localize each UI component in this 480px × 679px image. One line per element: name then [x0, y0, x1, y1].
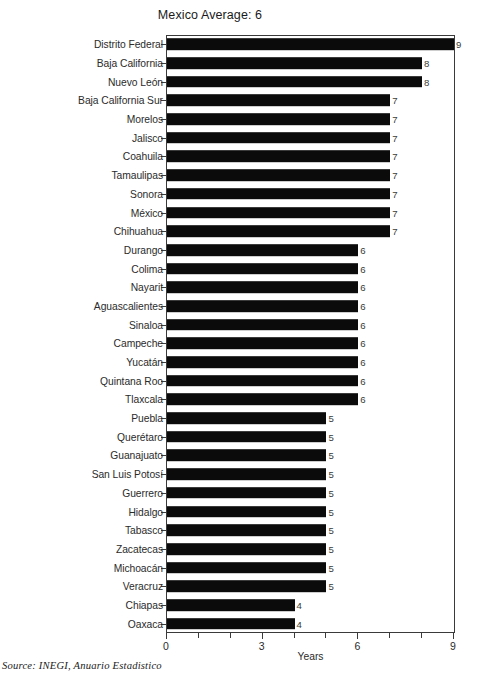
table-row: Chiapas4 [0, 596, 480, 615]
table-row: Guerrero5 [0, 484, 480, 503]
bar-value-label: 6 [360, 375, 365, 386]
bar [167, 394, 358, 406]
x-axis-tick [294, 633, 295, 638]
category-label: Aguascalientes [94, 300, 163, 311]
category-label: Chiapas [126, 599, 163, 610]
bar [167, 57, 422, 69]
bar-value-label: 4 [297, 599, 302, 610]
x-axis-tick [389, 633, 390, 638]
bar-value-label: 5 [328, 413, 333, 424]
table-row: Sonora7 [0, 185, 480, 204]
bar [167, 562, 326, 574]
table-row: Tlaxcala6 [0, 390, 480, 409]
bar-value-label: 5 [328, 506, 333, 517]
category-label: Querétaro [117, 431, 163, 442]
bar [167, 188, 390, 200]
table-row: Hidalgo5 [0, 502, 480, 521]
category-label: Tlaxcala [125, 394, 163, 405]
bar [167, 543, 326, 555]
category-label: Baja California [97, 58, 163, 69]
bar-value-label: 7 [392, 114, 397, 125]
bar [167, 244, 358, 256]
bar [167, 39, 454, 51]
bar-value-label: 5 [328, 525, 333, 536]
bar [167, 319, 358, 331]
bar-value-label: 6 [360, 263, 365, 274]
category-label: San Luis Potosí [92, 469, 163, 480]
table-row: Oaxaca4 [0, 614, 480, 633]
bar-value-label: 5 [328, 431, 333, 442]
bar [167, 487, 326, 499]
bar [167, 356, 358, 368]
bar [167, 338, 358, 350]
table-row: Veracruz5 [0, 577, 480, 596]
category-label: México [131, 207, 163, 218]
x-axis-tick [262, 633, 263, 639]
bar [167, 207, 390, 219]
bar-value-label: 5 [328, 581, 333, 592]
table-row: Tamaulipas7 [0, 166, 480, 185]
bar [167, 375, 358, 387]
table-row: San Luis Potosí5 [0, 465, 480, 484]
bar-value-label: 5 [328, 469, 333, 480]
table-row: Coahuila7 [0, 147, 480, 166]
category-label: Guanajuato [110, 450, 163, 461]
bar [167, 580, 326, 592]
bar [167, 599, 295, 611]
x-axis-tick [166, 633, 167, 639]
x-axis-title: Years [166, 651, 455, 662]
bar-value-label: 6 [360, 319, 365, 330]
category-label: Campeche [114, 338, 163, 349]
table-row: Guanajuato5 [0, 446, 480, 465]
category-label: Sonora [130, 188, 163, 199]
source-note: Source: INEGI, Anuario Estadistico [2, 660, 162, 671]
table-row: Tabasco5 [0, 521, 480, 540]
bar-value-label: 5 [328, 450, 333, 461]
bar-value-label: 5 [328, 543, 333, 554]
category-label: Morelos [127, 114, 163, 125]
bar-value-label: 7 [392, 95, 397, 106]
category-label: Nayarit [131, 282, 163, 293]
bar-value-label: 6 [360, 300, 365, 311]
bar [167, 468, 326, 480]
category-label: Oaxaca [128, 618, 163, 629]
category-label: Tabasco [125, 525, 163, 536]
bar-value-label: 4 [297, 618, 302, 629]
category-label: Tamaulipas [111, 170, 163, 181]
category-label: Yucatán [126, 357, 163, 368]
table-row: Durango6 [0, 241, 480, 260]
bar-value-label: 7 [392, 207, 397, 218]
bar-value-label: 6 [360, 357, 365, 368]
category-label: Coahuila [123, 151, 163, 162]
bar-value-label: 7 [392, 188, 397, 199]
table-row: Baja California8 [0, 54, 480, 73]
bar-value-label: 7 [392, 170, 397, 181]
table-row: Colima6 [0, 259, 480, 278]
x-axis-tick [230, 633, 231, 638]
bar [167, 132, 390, 144]
category-label: Sinaloa [129, 319, 163, 330]
category-label: Durango [124, 244, 163, 255]
bar [167, 300, 358, 312]
table-row: Querétaro5 [0, 427, 480, 446]
category-label: Distrito Federal [94, 39, 163, 50]
table-row: Baja California Sur7 [0, 91, 480, 110]
table-row: Aguascalientes6 [0, 297, 480, 316]
table-row: Yucatán6 [0, 353, 480, 372]
bar-value-label: 8 [424, 76, 429, 87]
bar [167, 450, 326, 462]
chart-title: Mexico Average: 6 [0, 8, 420, 22]
table-row: Puebla5 [0, 409, 480, 428]
bar [167, 95, 390, 107]
bar [167, 113, 390, 125]
bar-value-label: 5 [328, 562, 333, 573]
bar-value-label: 7 [392, 226, 397, 237]
category-label: Nuevo León [108, 76, 163, 87]
x-axis-tick [453, 633, 454, 639]
category-label: Jalisco [132, 132, 163, 143]
table-row: Quintana Roo6 [0, 371, 480, 390]
bar [167, 618, 295, 630]
table-row: Campeche6 [0, 334, 480, 353]
category-label: Puebla [131, 413, 163, 424]
bar-value-label: 6 [360, 244, 365, 255]
